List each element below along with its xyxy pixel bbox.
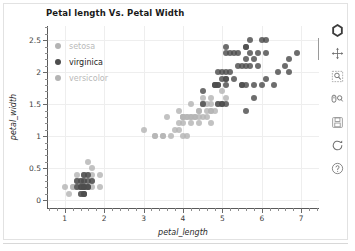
y-tick-minor [45, 98, 48, 99]
y-tick-minor [45, 162, 48, 163]
scatter-point [188, 101, 194, 107]
scatter-point [282, 63, 288, 69]
scatter-point [219, 88, 225, 94]
x-tick-minor [159, 208, 160, 211]
scatter-point [243, 56, 249, 62]
y-tick-minor [45, 91, 48, 92]
y-tick-minor [45, 47, 48, 48]
scatter-point [62, 184, 68, 190]
legend-marker [55, 59, 61, 65]
y-tick-major [43, 200, 48, 201]
scatter-point [243, 63, 249, 69]
scatter-point [219, 76, 225, 82]
scatter-point [227, 69, 233, 75]
scatter-point [286, 69, 292, 75]
y-tick-minor [45, 66, 48, 67]
scatter-point [74, 184, 80, 190]
scatter-point [200, 95, 206, 101]
y-tick-minor [45, 59, 48, 60]
toolbar-separator [318, 38, 319, 60]
y-tick-minor [45, 34, 48, 35]
scatter-point [263, 76, 269, 82]
toolbar [326, 20, 348, 181]
y-tick-major [43, 136, 48, 137]
pan-icon[interactable] [327, 43, 347, 63]
y-tick-minor [45, 123, 48, 124]
gridline-vertical [301, 26, 302, 208]
scatter-point [251, 56, 257, 62]
y-tick-minor [45, 85, 48, 86]
scatter-point [81, 191, 87, 197]
x-tick-minor [57, 208, 58, 211]
y-tick-minor [45, 130, 48, 131]
scatter-point [89, 178, 95, 184]
scatter-point [263, 37, 269, 43]
y-tick-minor [45, 175, 48, 176]
x-tick-label: 6 [259, 214, 264, 223]
x-tick-minor [49, 208, 50, 211]
scatter-point [204, 114, 210, 120]
y-tick-minor [45, 53, 48, 54]
box-zoom-icon[interactable] [327, 66, 347, 86]
scatter-point [188, 120, 194, 126]
x-tick-minor [207, 208, 208, 211]
scatter-point [251, 82, 257, 88]
legend-label: versicolor [69, 74, 108, 83]
y-tick-label: 2.5 [22, 36, 41, 45]
x-tick-minor [215, 208, 216, 211]
scatter-point [66, 191, 72, 197]
bottom-rule [3, 243, 348, 244]
x-tick-major [301, 208, 302, 213]
x-tick-minor [175, 208, 176, 211]
scatter-point [74, 172, 80, 178]
y-tick-minor [45, 79, 48, 80]
x-tick-minor [136, 208, 137, 211]
help-icon[interactable] [327, 158, 347, 178]
legend-item[interactable]: virginica [55, 54, 108, 70]
reset-icon[interactable] [327, 135, 347, 155]
x-tick-minor [88, 208, 89, 211]
x-tick-minor [96, 208, 97, 211]
scatter-point [294, 50, 300, 56]
scatter-point [164, 114, 170, 120]
scatter-point [243, 108, 249, 114]
legend: setosavirginicaversicolor [55, 38, 108, 86]
scatter-point [247, 37, 253, 43]
y-tick-minor [45, 155, 48, 156]
scatter-point [196, 120, 202, 126]
scatter-point [141, 127, 147, 133]
y-tick-major [43, 72, 48, 73]
gridline-vertical [144, 26, 145, 208]
x-tick-minor [81, 208, 82, 211]
x-tick-minor [246, 208, 247, 211]
wheel-zoom-icon[interactable] [327, 89, 347, 109]
legend-item[interactable]: setosa [55, 38, 108, 54]
scatter-point [204, 108, 210, 114]
y-tick-label: 0 [22, 196, 41, 205]
scatter-point [97, 172, 103, 178]
save-icon[interactable] [327, 112, 347, 132]
x-tick-minor [167, 208, 168, 211]
y-tick-minor [45, 117, 48, 118]
scatter-point [243, 44, 249, 50]
scatter-point [200, 101, 206, 107]
x-tick-minor [254, 208, 255, 211]
y-tick-major [43, 104, 48, 105]
scatter-point [275, 69, 281, 75]
legend-item[interactable]: versicolor [55, 70, 108, 86]
x-tick-minor [309, 208, 310, 211]
legend-marker [55, 75, 61, 81]
legend-marker [55, 43, 61, 49]
scatter-point [235, 50, 241, 56]
scatter-point [223, 82, 229, 88]
gridline-horizontal [47, 168, 319, 169]
x-tick-minor [128, 208, 129, 211]
x-tick-minor [230, 208, 231, 211]
scatter-point [271, 82, 277, 88]
legend-label: virginica [69, 58, 103, 67]
gridline-horizontal [47, 200, 319, 201]
bokeh-plot-app: Petal length Vs. Petal Width 123456700.5… [0, 0, 355, 251]
scatter-point [259, 82, 265, 88]
scatter-point [212, 82, 218, 88]
scatter-point [85, 184, 91, 190]
